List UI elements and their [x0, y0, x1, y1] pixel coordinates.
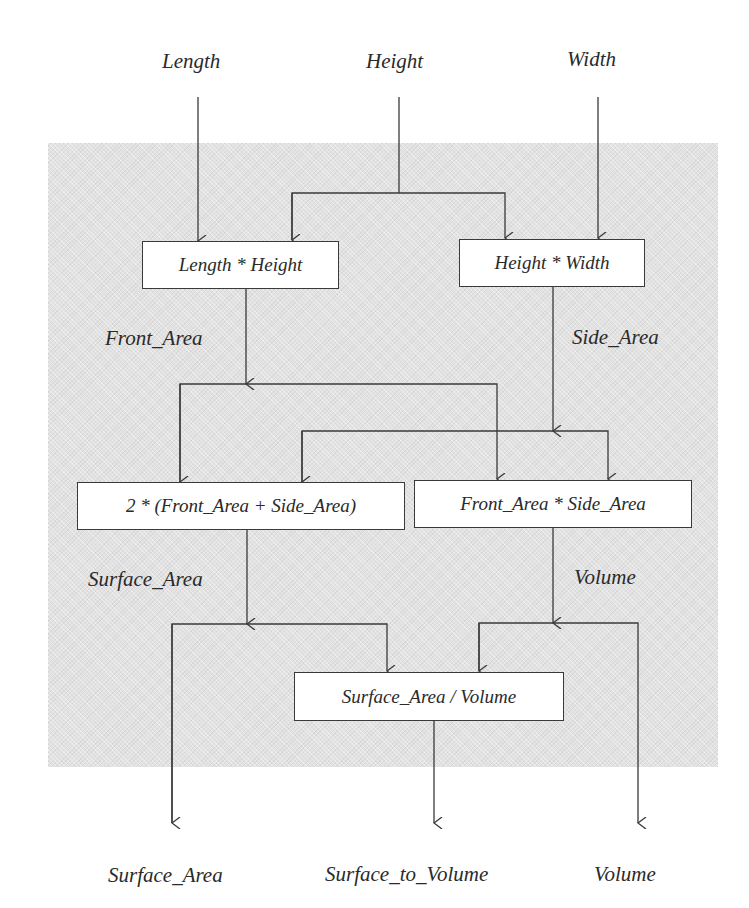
input-height-label: Height	[366, 51, 423, 72]
front-area-box: Length * Height	[142, 241, 339, 289]
volume-flow-label: Volume	[574, 567, 636, 588]
side-area-box: Height * Width	[459, 239, 645, 287]
volume-box: Front_Area * Side_Area	[414, 480, 692, 528]
connector-lines	[0, 0, 749, 908]
output-volume-label: Volume	[594, 864, 656, 885]
side-area-flow-label: Side_Area	[572, 327, 659, 348]
ratio-box: Surface_Area / Volume	[294, 672, 564, 721]
output-surface-area-label: Surface_Area	[108, 865, 223, 886]
surface-area-box: 2 * (Front_Area + Side_Area)	[77, 482, 405, 530]
surface-area-flow-label: Surface_Area	[88, 569, 203, 590]
input-width-label: Width	[567, 49, 616, 70]
output-surface-to-volume-label: Surface_to_Volume	[325, 864, 488, 885]
front-area-flow-label: Front_Area	[105, 328, 203, 349]
input-length-label: Length	[162, 51, 220, 72]
